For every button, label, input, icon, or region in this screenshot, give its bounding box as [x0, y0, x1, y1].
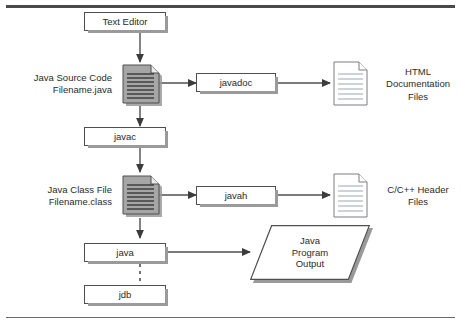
- node-javac-label: javac: [114, 132, 136, 142]
- diagram-canvas: Text Editor javadoc javac javah java jdb: [0, 0, 461, 327]
- html-documentation-label-line-3: Files: [378, 91, 458, 103]
- java-source-label-line-2: Filename.java: [16, 84, 112, 96]
- java-class-label-line-1: Java Class File: [16, 184, 112, 196]
- node-jdb[interactable]: jdb: [84, 285, 166, 304]
- html-documentation-label-line-1: HTML: [378, 66, 458, 78]
- connector-layer: [0, 0, 461, 327]
- java-source-document-icon: [118, 61, 164, 107]
- node-text-editor-label: Text Editor: [103, 17, 148, 27]
- node-javah[interactable]: javah: [196, 186, 276, 205]
- java-source-label: Java Source Code Filename.java: [16, 72, 112, 97]
- bottom-rule: [6, 317, 455, 318]
- java-program-output-shape: Java Program Output: [250, 225, 370, 280]
- node-jdb-label: jdb: [119, 290, 132, 300]
- html-documentation-label: HTML Documentation Files: [378, 66, 458, 103]
- node-java[interactable]: java: [84, 243, 166, 262]
- top-rule: [6, 5, 455, 8]
- node-javadoc[interactable]: javadoc: [196, 73, 276, 92]
- java-class-label: Java Class File Filename.class: [16, 184, 112, 209]
- java-program-output-label-line-1: Java: [300, 235, 320, 247]
- c-header-files-label-line-1: C/C++ Header: [376, 184, 460, 196]
- c-header-files-icon: [332, 172, 372, 220]
- java-program-output-label: Java Program Output: [250, 225, 370, 280]
- c-header-files-label-line-2: Files: [376, 196, 460, 208]
- node-text-editor[interactable]: Text Editor: [84, 12, 166, 31]
- node-java-label: java: [116, 248, 133, 258]
- java-program-output-label-line-3: Output: [296, 258, 325, 270]
- node-javah-label: javah: [225, 191, 248, 201]
- java-class-document-icon: [118, 172, 164, 218]
- java-class-label-line-2: Filename.class: [16, 196, 112, 208]
- node-javadoc-label: javadoc: [220, 78, 253, 88]
- html-documentation-label-line-2: Documentation: [378, 78, 458, 90]
- node-javac[interactable]: javac: [84, 127, 166, 146]
- java-program-output-label-line-2: Program: [292, 247, 328, 259]
- c-header-files-label: C/C++ Header Files: [376, 184, 460, 209]
- html-documentation-icon: [332, 60, 372, 108]
- java-source-label-line-1: Java Source Code: [16, 72, 112, 84]
